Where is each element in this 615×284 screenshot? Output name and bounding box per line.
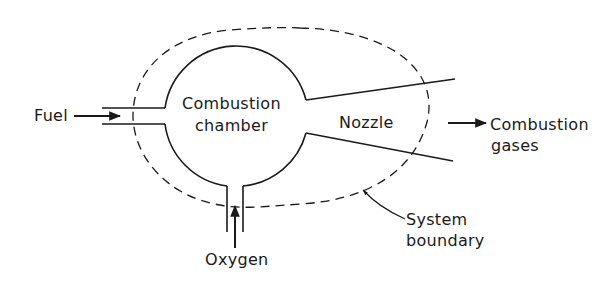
nozzle-label: Nozzle bbox=[339, 113, 394, 133]
boundary-label-line1: System bbox=[406, 210, 467, 230]
chamber-label-line1: Combustion bbox=[182, 94, 281, 114]
gases-label-line2: gases bbox=[491, 136, 539, 156]
combustion-chamber-wall-lower-right bbox=[243, 133, 306, 186]
chamber-label-line2: chamber bbox=[195, 116, 268, 136]
fuel-label: Fuel bbox=[34, 106, 68, 126]
boundary-label-line2: boundary bbox=[406, 231, 485, 251]
nozzle-wall-bottom bbox=[306, 133, 453, 161]
oxygen-label: Oxygen bbox=[205, 250, 268, 270]
nozzle-wall-top bbox=[306, 79, 455, 100]
boundary-leader-arrow bbox=[363, 190, 405, 219]
gases-label-line1: Combustion bbox=[490, 115, 589, 135]
